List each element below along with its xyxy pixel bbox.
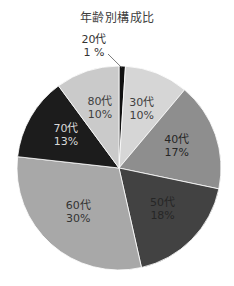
slice-category-label: 30代 — [129, 96, 154, 109]
pie-slices — [17, 66, 221, 270]
slice-category-label: 20代 — [82, 33, 107, 46]
slice-category-label: 70代 — [53, 122, 78, 135]
slice-percent-label: 13% — [54, 135, 78, 148]
slice-category-label: 50代 — [150, 196, 175, 209]
slice-category-label: 80代 — [87, 95, 112, 108]
slice-category-label: 60代 — [66, 199, 91, 212]
slice-percent-label: 17% — [165, 146, 189, 159]
slice-percent-label: 18% — [150, 209, 174, 222]
slice-category-label: 40代 — [164, 133, 189, 146]
pie-chart: 20代1 %30代10%40代17%50代18%60代30%70代13%80代1… — [0, 0, 234, 286]
slice-percent-label: 30% — [66, 212, 90, 225]
slice-percent-label: 10% — [88, 108, 112, 121]
slice-percent-label: 1 % — [84, 46, 105, 59]
slice-percent-label: 10% — [130, 109, 154, 122]
